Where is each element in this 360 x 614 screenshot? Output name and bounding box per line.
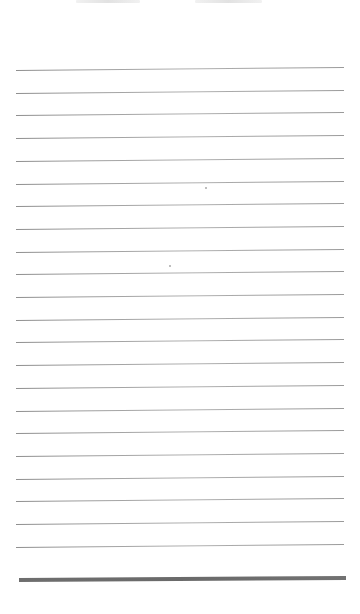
ruled-line	[16, 453, 344, 457]
ruled-line	[16, 294, 344, 298]
ruled-line	[16, 112, 344, 116]
ruled-line	[16, 385, 344, 389]
notepaper-page	[0, 0, 360, 614]
ruled-line	[16, 203, 344, 207]
ruled-line	[16, 226, 344, 230]
ruled-line	[16, 521, 344, 525]
ruled-line	[16, 408, 344, 412]
ruled-line	[16, 135, 344, 139]
ruled-line	[16, 158, 344, 162]
paper-speck	[205, 187, 207, 189]
ruled-line	[16, 67, 344, 71]
ruled-line	[16, 249, 344, 253]
ruled-line	[16, 181, 344, 185]
ruled-line	[16, 476, 344, 480]
ruled-line	[16, 339, 344, 343]
ruled-lines	[0, 0, 360, 614]
ruled-line	[16, 544, 344, 548]
ruled-line	[16, 317, 344, 321]
ruled-line	[16, 271, 344, 275]
paper-speck	[169, 265, 171, 267]
ruled-line	[16, 90, 344, 94]
ruled-line	[16, 498, 344, 502]
ruled-line	[16, 362, 344, 366]
ruled-line	[16, 430, 344, 434]
